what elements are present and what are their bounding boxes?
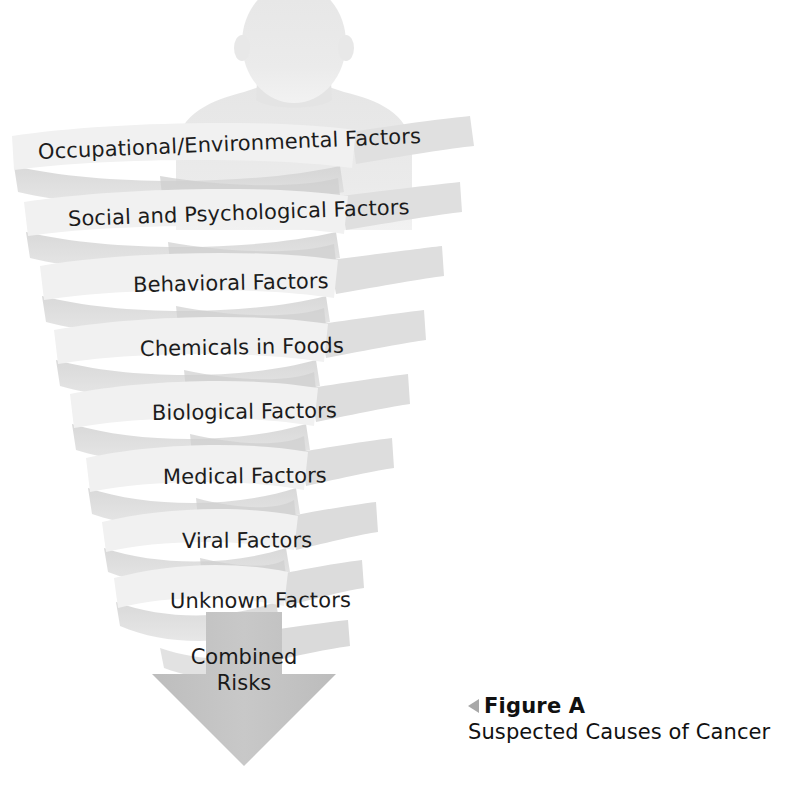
band-label-6: Medical Factors [163, 463, 327, 489]
left-triangle-icon [468, 699, 479, 713]
caption-title: Figure A [484, 694, 585, 718]
band-label-3: Behavioral Factors [133, 269, 329, 297]
band-label-8: Unknown Factors [170, 588, 351, 613]
figure-suspected-causes-of-cancer: Occupational/Environmental Factors Socia… [0, 0, 790, 798]
arrow-label-combined-risks: Combined Risks [144, 644, 344, 697]
band-label-4: Chemicals in Foods [140, 333, 344, 361]
arrow-label-line-2: Risks [144, 670, 344, 696]
arrow-label-line-1: Combined [144, 644, 344, 670]
band-label-5: Biological Factors [152, 398, 337, 425]
caption-title-row: Figure A [468, 694, 778, 718]
caption-subtitle: Suspected Causes of Cancer [468, 720, 778, 744]
spiral-funnel-ribbon [0, 0, 790, 798]
figure-caption: Figure A Suspected Causes of Cancer [468, 694, 778, 744]
band-label-7: Viral Factors [182, 528, 312, 553]
